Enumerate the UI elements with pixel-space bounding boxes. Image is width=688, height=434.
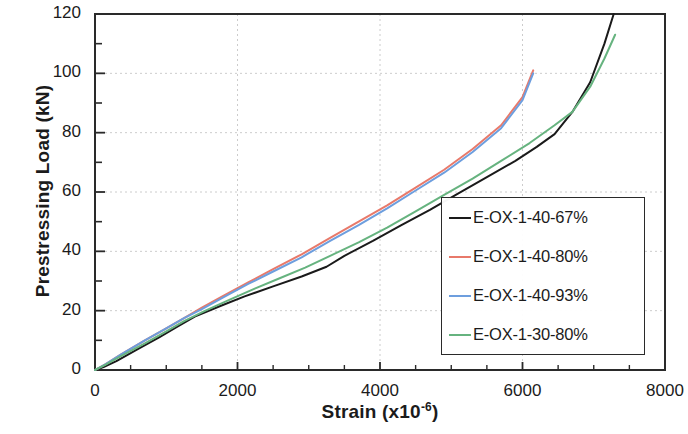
y-tick-label: 60: [23, 181, 81, 201]
legend-item-label: E-OX-1-40-67%: [473, 208, 588, 227]
legend-line-swatch: [449, 295, 471, 297]
y-tick-label: 100: [23, 62, 81, 82]
legend-line-swatch: [449, 334, 471, 336]
x-axis-title-close: ): [432, 401, 439, 422]
legend-item-1[interactable]: E-OX-1-40-67%: [442, 198, 644, 237]
legend-item-4[interactable]: E-OX-1-30-80%: [442, 315, 644, 354]
y-tick-label: 120: [23, 3, 81, 23]
legend-item-2[interactable]: E-OX-1-40-80%: [442, 237, 644, 276]
legend: E-OX-1-40-67%E-OX-1-40-80%E-OX-1-40-93%E…: [441, 197, 645, 355]
legend-item-label: E-OX-1-40-80%: [473, 247, 588, 266]
legend-line-swatch: [449, 217, 471, 219]
legend-item-label: E-OX-1-40-93%: [473, 286, 588, 305]
x-axis-title-base: Strain (x10: [322, 401, 421, 422]
x-tick-label: 6000: [483, 381, 563, 401]
x-axis-title-exponent: -6: [421, 400, 432, 414]
x-tick-label: 0: [55, 381, 135, 401]
x-tick-label: 2000: [198, 381, 278, 401]
legend-item-label: E-OX-1-30-80%: [473, 325, 588, 344]
legend-line-swatch: [449, 256, 471, 258]
x-tick-label: 8000: [625, 381, 688, 401]
y-tick-label: 40: [23, 240, 81, 260]
y-tick-label: 0: [23, 359, 81, 379]
legend-item-3[interactable]: E-OX-1-40-93%: [442, 276, 644, 315]
y-tick-label: 20: [23, 300, 81, 320]
x-axis-title: Strain (x10-6): [150, 400, 610, 423]
y-tick-label: 80: [23, 122, 81, 142]
x-tick-label: 4000: [340, 381, 420, 401]
